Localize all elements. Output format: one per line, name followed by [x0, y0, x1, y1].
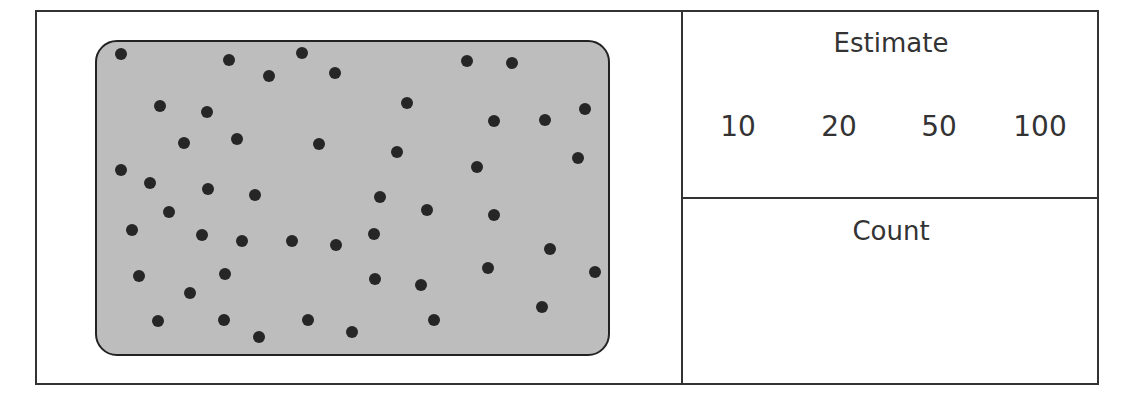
dot-panel	[95, 40, 610, 356]
dot	[184, 287, 196, 299]
dot	[219, 268, 231, 280]
dot	[536, 301, 548, 313]
dot	[488, 209, 500, 221]
dot	[152, 315, 164, 327]
dot	[482, 262, 494, 274]
dot	[572, 152, 584, 164]
estimate-option-100[interactable]: 100	[1013, 110, 1066, 143]
dot	[163, 206, 175, 218]
dot	[421, 204, 433, 216]
dot	[544, 243, 556, 255]
dot	[236, 235, 248, 247]
count-answer-area[interactable]	[683, 260, 1097, 382]
dot	[115, 164, 127, 176]
dot	[313, 138, 325, 150]
dot	[218, 314, 230, 326]
dot	[506, 57, 518, 69]
estimate-options: 10 20 50 100	[683, 110, 1099, 150]
dot	[196, 229, 208, 241]
dot	[202, 183, 214, 195]
dot	[471, 161, 483, 173]
dot	[461, 55, 473, 67]
dot	[579, 103, 591, 115]
dot	[154, 100, 166, 112]
dot	[126, 224, 138, 236]
dot	[201, 106, 213, 118]
count-heading: Count	[683, 216, 1099, 246]
dot	[133, 270, 145, 282]
dot	[369, 273, 381, 285]
dot	[302, 314, 314, 326]
estimate-option-10[interactable]: 10	[720, 110, 756, 143]
dot	[286, 235, 298, 247]
dot	[488, 115, 500, 127]
dot	[346, 326, 358, 338]
dot	[296, 47, 308, 59]
dot	[115, 48, 127, 60]
dot	[249, 189, 261, 201]
dot	[589, 266, 601, 278]
dot	[330, 239, 342, 251]
dot	[144, 177, 156, 189]
dot	[428, 314, 440, 326]
dot	[539, 114, 551, 126]
estimate-option-20[interactable]: 20	[821, 110, 857, 143]
horizontal-divider	[681, 197, 1099, 199]
dot	[263, 70, 275, 82]
dot	[231, 133, 243, 145]
estimate-option-50[interactable]: 50	[921, 110, 957, 143]
dot	[401, 97, 413, 109]
dot	[223, 54, 235, 66]
dot	[329, 67, 341, 79]
estimate-heading: Estimate	[683, 28, 1099, 58]
dot	[391, 146, 403, 158]
dot	[178, 137, 190, 149]
dot	[415, 279, 427, 291]
dot	[368, 228, 380, 240]
dot	[253, 331, 265, 343]
dot	[374, 191, 386, 203]
